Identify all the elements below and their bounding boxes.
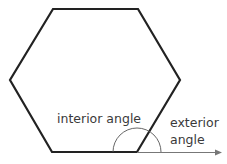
interior-angle-label: interior angle [57, 111, 141, 126]
exterior-angle-label-line1: exterior [170, 115, 220, 130]
hexagon-angle-diagram: interior angle exterior angle [0, 0, 227, 164]
hexagon-outline [10, 9, 180, 152]
angle-arc [113, 128, 161, 152]
exterior-angle-label-line2: angle [170, 132, 205, 147]
